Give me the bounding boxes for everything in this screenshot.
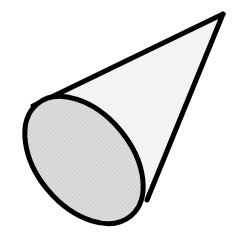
cone-figure [0, 0, 233, 247]
cone-drawing [0, 0, 233, 247]
